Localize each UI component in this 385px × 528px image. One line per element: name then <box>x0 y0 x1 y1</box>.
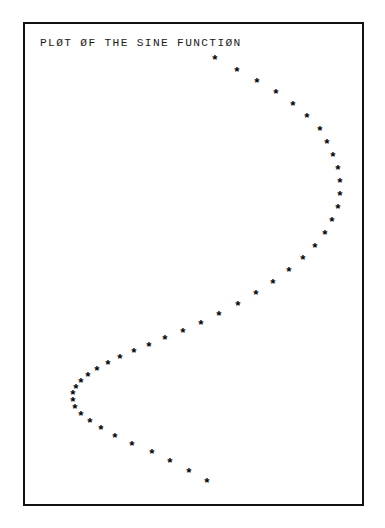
plot-point: * <box>285 266 293 279</box>
plot-point: * <box>116 353 124 366</box>
plot-frame: PLØT ØF THE SINE FUNCTIØN **************… <box>23 22 364 506</box>
plot-point: * <box>104 359 112 372</box>
plot-point: * <box>128 440 136 453</box>
plot-point: * <box>179 327 187 340</box>
plot-point: * <box>93 365 101 378</box>
plot-point: * <box>211 54 219 67</box>
plot-point: * <box>299 254 307 267</box>
plot-point: * <box>185 467 193 480</box>
plot-point: * <box>84 371 92 384</box>
plot-point: * <box>97 424 105 437</box>
plot-point: * <box>269 278 277 291</box>
plot-point: * <box>253 77 261 90</box>
plot-point: * <box>130 347 138 360</box>
plot-point: * <box>234 300 242 313</box>
plot-point: * <box>272 88 280 101</box>
plot-point: * <box>289 100 297 113</box>
plot-point: * <box>233 66 241 79</box>
plot-point: * <box>86 417 94 430</box>
plot-point: * <box>215 310 223 323</box>
plot-point: * <box>311 242 319 255</box>
plot-point: * <box>148 448 156 461</box>
plot-point: * <box>203 477 211 490</box>
plot-point: * <box>321 229 329 242</box>
plot-canvas: ****************************************… <box>25 24 362 504</box>
plot-point: * <box>166 457 174 470</box>
plot-point: * <box>77 410 85 423</box>
plot-point: * <box>111 432 119 445</box>
plot-point: * <box>303 112 311 125</box>
plot-point: * <box>145 341 153 354</box>
screenshot-page: PLØT ØF THE SINE FUNCTIØN **************… <box>0 0 385 528</box>
plot-point: * <box>197 319 205 332</box>
plot-point: * <box>328 216 336 229</box>
plot-point: * <box>252 289 260 302</box>
plot-point: * <box>161 334 169 347</box>
